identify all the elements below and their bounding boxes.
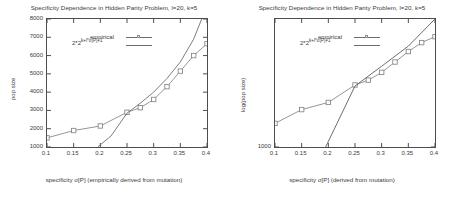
- legend-sample-line-formula-right: [354, 45, 380, 46]
- figure-container: Specificity Dependence in Hidden Parity …: [0, 0, 456, 200]
- x-tick-label-left: 0.4: [202, 150, 210, 156]
- x-tick-label-left: 0.35: [173, 150, 185, 156]
- y-tick-label-left: 8000: [20, 15, 43, 21]
- x-tick-label-right: 0.4: [430, 150, 438, 156]
- y-axis-title-right: log(pop size): [240, 78, 246, 112]
- legend-sample-marker-empirical-left: [137, 35, 140, 38]
- legend-label-formula-right: 2*2k+l*σ[P]+1: [300, 38, 331, 46]
- x-tick-label-right: 0.3: [376, 150, 384, 156]
- x-tick-label-right: 0.2: [323, 150, 331, 156]
- x-tick-label-right: 0.15: [295, 150, 307, 156]
- x-tick-label-left: 0.25: [120, 150, 132, 156]
- x-tick-label-right: 0.1: [270, 150, 278, 156]
- legend-formula-base-right: 2*2: [300, 40, 309, 46]
- legend-sample-marker-empirical-right: [365, 35, 368, 38]
- y-tick-label-left: 5000: [20, 70, 43, 76]
- legend-left: empirical 2*2k+l*σ[P]+1: [72, 34, 162, 54]
- x-tick-label-right: 0.35: [401, 150, 413, 156]
- y-tick-label-left: 1000: [20, 143, 43, 149]
- y-axis-title-left: pop size: [10, 78, 16, 100]
- legend-formula-exponent-left: k+l*σ[P]+1: [81, 38, 102, 43]
- y-tick-label-left: 3000: [20, 106, 43, 112]
- x-tick-label-left: 0.3: [148, 150, 156, 156]
- legend-formula-exponent-right: k+l*σ[P]+1: [309, 38, 330, 43]
- x-axis-title-right: specificity σ[P] (derived from mutation): [228, 176, 456, 183]
- chart-title-right: Specificity Dependence in Hidden Parity …: [228, 4, 456, 11]
- y-tick-label-left: 2000: [20, 125, 43, 131]
- chart-panel-right: Specificity Dependence in Hidden Parity …: [228, 0, 456, 200]
- x-tick-label-left: 0.2: [95, 150, 103, 156]
- legend-sample-line-formula-left: [126, 45, 152, 46]
- chart-title-left: Specificity Dependence in Hidden Parity …: [0, 4, 228, 11]
- y-tick-label-right: 1000: [248, 143, 271, 149]
- y-tick-label-left: 6000: [20, 52, 43, 58]
- y-tick-label-left: 7000: [20, 33, 43, 39]
- y-tick-label-left: 4000: [20, 88, 43, 94]
- x-tick-label-right: 0.25: [348, 150, 360, 156]
- x-axis-title-left: specificity σ[P] (empirically derived fr…: [0, 176, 228, 183]
- legend-right: empirical 2*2k+l*σ[P]+1: [300, 34, 390, 54]
- x-tick-label-left: 0.1: [42, 150, 50, 156]
- x-tick-label-left: 0.15: [67, 150, 79, 156]
- legend-formula-base-left: 2*2: [72, 40, 81, 46]
- legend-label-formula-left: 2*2k+l*σ[P]+1: [72, 38, 103, 46]
- chart-panel-left: Specificity Dependence in Hidden Parity …: [0, 0, 228, 200]
